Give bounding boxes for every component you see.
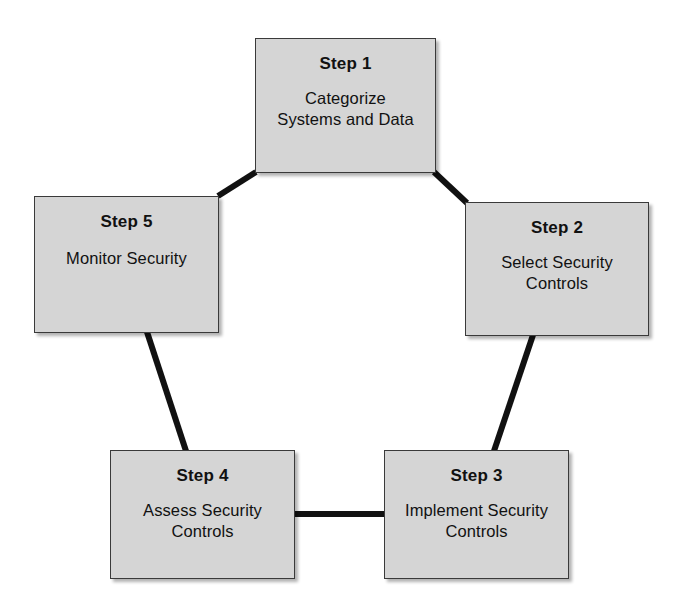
step-box-2[interactable]: Step 2 Select Security Controls <box>465 202 649 336</box>
step-box-1[interactable]: Step 1 Categorize Systems and Data <box>255 38 436 173</box>
step-1-description: Categorize Systems and Data <box>277 88 413 131</box>
step-2-description: Select Security Controls <box>501 252 613 295</box>
step-box-4[interactable]: Step 4 Assess Security Controls <box>110 450 295 579</box>
connector-2-to-3 <box>494 335 533 451</box>
step-3-description: Implement Security Controls <box>405 500 548 543</box>
step-5-description: Monitor Security <box>66 248 187 269</box>
step-3-title: Step 3 <box>450 467 502 486</box>
step-4-description: Assess Security Controls <box>143 500 262 543</box>
connector-5-to-1 <box>218 172 256 196</box>
step-box-5[interactable]: Step 5 Monitor Security <box>34 196 219 333</box>
step-box-3[interactable]: Step 3 Implement Security Controls <box>384 450 569 579</box>
step-5-title: Step 5 <box>100 213 152 232</box>
connector-1-to-2 <box>434 172 467 203</box>
step-1-title: Step 1 <box>319 55 371 74</box>
connector-4-to-5 <box>147 332 186 451</box>
step-4-title: Step 4 <box>176 467 228 486</box>
step-2-title: Step 2 <box>531 219 583 238</box>
process-cycle-diagram: Step 1 Categorize Systems and Data Step … <box>0 0 678 610</box>
